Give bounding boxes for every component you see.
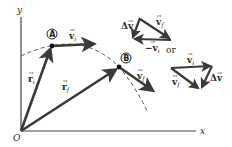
svg-text:B: B	[123, 54, 129, 63]
vector-triangle-top: Δv → vf → −vi →	[121, 12, 171, 54]
or-label: or	[166, 45, 176, 55]
neg-v-i-arrow-accent: →	[150, 38, 155, 45]
svg-text:A: A	[49, 30, 56, 39]
motion-vector-diagram: y x O ri → rf → vi → vf → A B Δv → vf → …	[0, 0, 232, 147]
v-i-arrow-accent-bottom: →	[188, 50, 193, 57]
v-i-arrow-accent: →	[70, 26, 75, 33]
v-f-arrow-accent-bottom: →	[173, 72, 178, 79]
r-i-vector	[21, 50, 50, 131]
r-f-vector	[21, 70, 115, 131]
triangle-top-delta-v	[133, 18, 140, 37]
v-f-arrow-accent: →	[138, 66, 143, 73]
delta-v-arrow-accent: →	[128, 17, 133, 24]
y-axis-label: y	[16, 5, 23, 15]
point-A-badge: A	[47, 29, 57, 39]
delta-v-arrow-accent-bottom: →	[217, 69, 222, 76]
v-f-arrow-accent-top: →	[157, 12, 162, 19]
point-B	[117, 65, 122, 70]
r-f-arrow-accent: →	[63, 77, 68, 84]
v-f-vector-at-B	[119, 67, 152, 90]
r-i-arrow-accent: →	[29, 69, 34, 76]
x-axis-label: x	[200, 126, 205, 136]
origin-label: O	[13, 133, 21, 143]
vector-triangle-bottom: vi → vf → Δv →	[171, 50, 223, 89]
point-A	[50, 44, 55, 49]
triangle-top-v-f	[140, 19, 169, 38]
triangle-bottom-v-i	[171, 66, 210, 68]
point-B-badge: B	[121, 53, 131, 63]
